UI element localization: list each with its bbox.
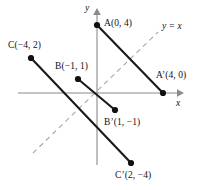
x-axis-label: x [176, 99, 180, 109]
point-label-b-prime: B’(1, −1) [104, 118, 140, 128]
mirror-line-label: y = x [162, 22, 182, 32]
point-a [94, 22, 100, 28]
point-label-b: B(−1, 1) [55, 62, 88, 72]
point-label-a-prime: A’(4, 0) [156, 71, 186, 81]
point-label-c: C(−4, 2) [8, 41, 41, 51]
segment-a-to-a-prime [97, 25, 163, 93]
point-a-prime [160, 90, 166, 96]
x-axis-arrowhead [177, 89, 184, 97]
point-b [75, 76, 81, 82]
point-b-prime [112, 107, 118, 113]
point-c [28, 55, 34, 61]
point-label-a: A(0, 4) [104, 19, 132, 29]
y-axis-arrowhead [93, 8, 101, 15]
y-axis-label: y [85, 4, 89, 14]
point-label-c-prime: C’(2, −4) [115, 171, 151, 181]
coordinate-plane-figure: y x y = x A(0, 4) B(−1, 1) C(−4, 2) A’(4… [0, 0, 203, 190]
point-c-prime [128, 160, 134, 166]
